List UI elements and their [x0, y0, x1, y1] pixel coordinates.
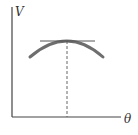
x-axis-label: θ: [124, 113, 131, 125]
diagram-canvas: [0, 0, 138, 135]
concave-down-curve: [30, 41, 103, 57]
figure-caption: [8, 128, 118, 135]
y-axis-label: V: [15, 6, 24, 18]
diagram-figure: V θ: [0, 0, 138, 135]
